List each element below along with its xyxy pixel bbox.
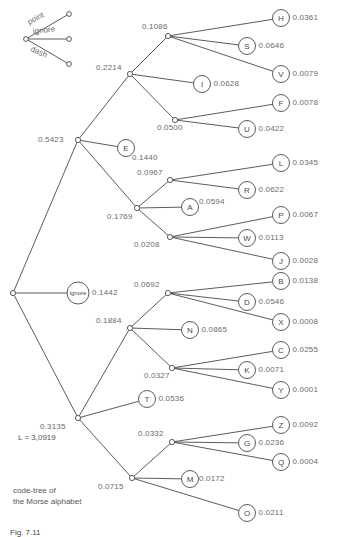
internal-node-value: 0.1884 xyxy=(96,316,122,325)
tree-edge xyxy=(175,368,239,370)
leaf-node-letter: B xyxy=(278,277,283,286)
leaf-node-value: 0.0546 xyxy=(259,297,285,306)
leaf-node-value: 0.0001 xyxy=(293,385,319,394)
leaf-node-letter: D xyxy=(244,298,250,307)
internal-node xyxy=(134,205,139,210)
tree-edge xyxy=(178,120,239,128)
leaf-node-letter: J xyxy=(279,257,283,266)
leaf-node-value: 0.0028 xyxy=(293,256,319,265)
internal-node xyxy=(10,290,15,295)
tree-edge xyxy=(173,237,239,238)
internal-node-value: 0.5423 xyxy=(38,135,64,144)
leaf-node-letter: K xyxy=(244,366,250,375)
leaf-node-value: 0.0211 xyxy=(259,508,284,517)
tree-edge xyxy=(171,294,273,320)
leaf-node-letter: M xyxy=(187,475,194,484)
leaf-node-letter: C xyxy=(278,346,284,355)
tree-edge xyxy=(178,104,273,119)
leaf-node-value: 0.0594 xyxy=(199,197,225,206)
leaf-node-letter: H xyxy=(278,14,284,23)
internal-node-value: 0.1086 xyxy=(142,22,168,31)
leaf-node-value: 0.0255 xyxy=(293,345,319,354)
leaf-node-letter: I xyxy=(201,80,203,89)
internal-node-value: 0.0692 xyxy=(134,280,160,289)
leaf-node-value: 0.0078 xyxy=(293,98,319,107)
internal-node xyxy=(75,415,80,420)
tree-edge xyxy=(139,210,168,236)
tree-edge xyxy=(134,444,170,477)
tree-edge xyxy=(171,293,239,301)
tree-edge xyxy=(173,164,273,179)
tree-edge xyxy=(132,295,166,326)
tree-edge xyxy=(14,142,77,290)
leaf-node-value: 0.0008 xyxy=(293,317,319,326)
leaf-node-value: 0.0628 xyxy=(214,79,240,88)
tree-edge xyxy=(81,401,139,417)
leaf-node-letter: P xyxy=(278,211,283,220)
internal-node xyxy=(169,365,174,370)
tree-edge xyxy=(171,19,273,35)
internal-node xyxy=(165,290,170,295)
tree-edge xyxy=(81,140,118,146)
leaf-node-letter: T xyxy=(145,395,150,404)
tree-edge xyxy=(133,74,194,82)
leaf-node-letter: V xyxy=(278,70,284,79)
leaf-node-letter: Q xyxy=(278,458,284,467)
leaf-node-letter: U xyxy=(244,125,250,134)
tree-edge xyxy=(139,182,168,207)
leaf-node-letter: G xyxy=(244,439,250,448)
tree-edge xyxy=(14,295,77,415)
internal-node xyxy=(167,234,172,239)
leaf-node-letter: Y xyxy=(278,386,284,395)
figure-title-line1: code-tree of xyxy=(13,486,56,496)
leaf-node-value: 0.1442 xyxy=(92,288,118,297)
leaf-node-letter: W xyxy=(243,234,251,243)
leaf-node-value: 0.0092 xyxy=(293,420,319,429)
leaf-node-value: 0.0172 xyxy=(199,474,225,483)
tree-edge xyxy=(132,76,173,118)
leaf-node-letter: S xyxy=(244,42,249,51)
tree-edge xyxy=(132,330,170,366)
leaf-node-value: 0.0646 xyxy=(259,41,285,50)
internal-node xyxy=(127,71,132,76)
internal-node xyxy=(167,177,172,182)
leaf-node-value: 0.0622 xyxy=(259,185,285,194)
leaf-node-value: 0.0236 xyxy=(259,438,285,447)
internal-node-value: 0.0208 xyxy=(134,240,160,249)
leaf-node-value: 0.0536 xyxy=(159,394,185,403)
internal-node xyxy=(172,117,177,122)
leaf-node-letter: R xyxy=(244,186,250,195)
internal-node-value: 0.0327 xyxy=(144,371,170,380)
leaf-node-value: 0.0079 xyxy=(293,69,319,78)
tree-edge xyxy=(132,38,166,72)
tree-edge xyxy=(171,282,273,293)
leaf-node-value: 0.0345 xyxy=(293,158,319,167)
leaf-node-value: 0.0865 xyxy=(202,325,228,334)
leaf-node-value: 0.0004 xyxy=(293,457,319,466)
leaf-node-value: 0.0071 xyxy=(259,365,285,374)
internal-node xyxy=(75,137,80,142)
leaf-node-value: 0.0422 xyxy=(259,124,285,133)
internal-node xyxy=(129,475,134,480)
leaf-node-letter: N xyxy=(187,326,193,335)
tree-edge xyxy=(79,330,128,416)
internal-node-value: 0.0332 xyxy=(138,429,164,438)
leaf-node-value: 0.0361 xyxy=(293,13,319,22)
leaf-node-letter: A xyxy=(187,203,193,212)
internal-node-value: 0.2214 xyxy=(96,63,122,72)
leaf-node-letter: X xyxy=(278,318,284,327)
tree-nodes: HSVIFUELRAPWJignoreBDXNCKYTZGQMO xyxy=(10,10,289,522)
leaf-node-letter: L xyxy=(279,159,284,168)
leaf-node-letter: F xyxy=(279,99,284,108)
leaf-node-letter: O xyxy=(244,509,250,518)
code-tree-figure: HSVIFUELRAPWJignoreBDXNCKYTZGQMO point i… xyxy=(0,0,357,537)
internal-node-value: 0.1769 xyxy=(107,212,133,221)
leaf-node-value: 0.0067 xyxy=(293,210,319,219)
leaf-node-letter: E xyxy=(123,144,128,153)
leaf-node-letter: Z xyxy=(279,421,284,430)
figure-number: Fig. 7.11 xyxy=(10,528,41,537)
tree-edge xyxy=(80,420,131,476)
cost-label: L = 3,0919 xyxy=(18,433,56,443)
internal-node xyxy=(127,325,132,330)
internal-node-value: 0.0715 xyxy=(98,482,124,491)
